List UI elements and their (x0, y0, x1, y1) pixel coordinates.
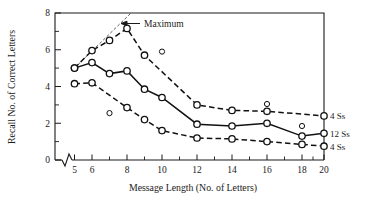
data-point (141, 116, 147, 122)
data-point (299, 123, 304, 128)
data-point (124, 104, 130, 110)
data-point (264, 138, 270, 144)
y-tick-label-8: 8 (45, 8, 50, 18)
data-point (264, 120, 270, 126)
data-point (71, 65, 77, 71)
x-tick-label-12: 12 (192, 165, 202, 175)
data-point (264, 108, 270, 114)
data-point (321, 113, 327, 119)
data-point (89, 59, 95, 65)
recall-vs-message-length-chart: 0 2 4 6 8 5 6 8 10 12 14 16 18 20 Messa (0, 0, 373, 205)
y-tick-label-2: 2 (45, 119, 50, 129)
chart-background (0, 0, 373, 205)
data-point (229, 136, 235, 142)
data-point (299, 141, 305, 147)
data-point (194, 102, 200, 108)
data-point (106, 70, 112, 76)
x-axis-label: Message Length (No. of Letters) (129, 182, 257, 194)
x-tick-label-16: 16 (262, 165, 272, 175)
x-tick-label-6: 6 (90, 165, 95, 175)
data-point (141, 86, 147, 92)
data-point (71, 81, 77, 87)
series-label-top-4ss: 4 Ss (330, 111, 346, 121)
data-point (107, 111, 112, 116)
data-point (89, 47, 95, 53)
x-tick-label-18: 18 (297, 165, 307, 175)
data-point (124, 68, 130, 74)
data-point (264, 101, 269, 106)
data-point (141, 52, 147, 58)
data-point (124, 25, 130, 31)
data-point (159, 49, 164, 54)
x-tick-label-5: 5 (72, 165, 77, 175)
data-point (194, 121, 200, 127)
series-label-middle-12ss: 12 Ss (330, 129, 350, 139)
data-point (321, 130, 327, 136)
data-point (321, 143, 327, 149)
y-axis-label: Recall No. of Correct Letters (6, 30, 17, 144)
series-label-bottom-4ss: 4 Ss (330, 142, 346, 152)
maximum-annotation-label: Maximum (144, 19, 184, 29)
x-tick-label-8: 8 (125, 165, 130, 175)
data-point (299, 133, 305, 139)
x-tick-label-10: 10 (157, 165, 167, 175)
y-tick-label-4: 4 (45, 82, 50, 92)
y-tick-label-6: 6 (45, 45, 50, 55)
data-point (229, 123, 235, 129)
data-point (159, 127, 165, 133)
x-tick-label-20: 20 (319, 165, 329, 175)
data-point (194, 135, 200, 141)
data-point (229, 107, 235, 113)
data-point (159, 94, 165, 100)
data-point (106, 37, 112, 43)
data-point (89, 80, 95, 86)
y-tick-label-0: 0 (45, 155, 50, 165)
x-tick-label-14: 14 (227, 165, 237, 175)
